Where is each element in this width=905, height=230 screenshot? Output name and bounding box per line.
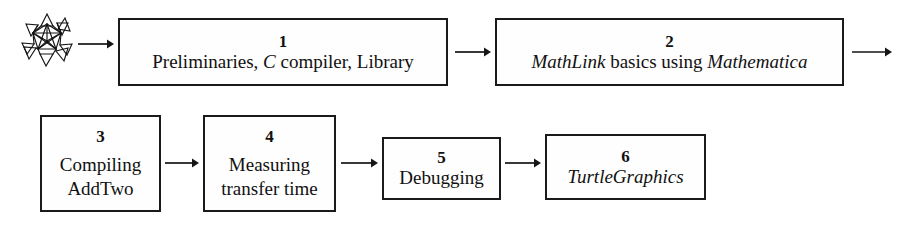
flow-node-1[interactable]: 1 Preliminaries, C compiler, Library <box>118 18 448 86</box>
arrow-node-5-to-node-6 <box>505 155 541 171</box>
flow-node-1-label: Preliminaries, C compiler, Library <box>152 51 414 72</box>
flow-node-6[interactable]: 6 TurtleGraphics <box>545 134 706 200</box>
flow-node-3-label-line-1: Compiling <box>60 154 141 175</box>
stellated-polyhedron-icon <box>18 11 76 69</box>
flow-node-2[interactable]: 2 MathLink basics using Mathematica <box>495 18 844 86</box>
flow-node-3[interactable]: 3 Compiling AddTwo <box>40 115 161 212</box>
flow-node-2-label: MathLink basics using Mathematica <box>531 51 807 72</box>
flow-node-2-label-part-1: MathLink <box>531 51 605 72</box>
flow-node-1-label-part-2: C <box>263 51 276 72</box>
flow-node-4-label-line-1: Measuring <box>229 154 310 175</box>
flow-node-1-number: 1 <box>279 32 288 51</box>
flow-node-1-label-part-1: Preliminaries, <box>152 51 263 72</box>
arrow-icon-to-node-1 <box>78 36 114 52</box>
flow-node-3-label: Compiling AddTwo <box>60 153 141 199</box>
flow-node-5-number: 5 <box>437 148 446 167</box>
arrow-node-1-to-node-2 <box>455 44 491 60</box>
flow-node-3-label-line-2: AddTwo <box>67 178 133 199</box>
flow-node-2-label-part-2: basics using <box>605 51 707 72</box>
flow-node-5-label-part-1: Debugging <box>399 167 483 188</box>
flow-node-6-number: 6 <box>621 147 630 166</box>
flow-node-6-label-part-1: TurtleGraphics <box>567 166 683 187</box>
flow-node-3-number: 3 <box>96 127 105 146</box>
flow-node-4-label-line-2: transfer time <box>221 178 318 199</box>
flow-node-1-label-part-3: compiler, Library <box>276 51 414 72</box>
flow-node-6-label: TurtleGraphics <box>567 166 683 187</box>
flow-node-4[interactable]: 4 Measuring transfer time <box>203 115 336 212</box>
flow-node-5[interactable]: 5 Debugging <box>382 137 501 200</box>
flow-node-4-number: 4 <box>265 127 274 146</box>
diagram-canvas: 1 Preliminaries, C compiler, Library 2 M… <box>0 0 905 230</box>
arrow-node-4-to-node-5 <box>341 155 378 171</box>
flow-node-5-label: Debugging <box>399 167 483 188</box>
flow-node-2-label-part-3: Mathematica <box>707 51 807 72</box>
arrow-node-3-to-node-4 <box>165 155 199 171</box>
flow-node-4-label: Measuring transfer time <box>221 153 318 199</box>
arrow-node-2-outgoing <box>852 44 892 60</box>
flow-node-2-number: 2 <box>665 32 674 51</box>
